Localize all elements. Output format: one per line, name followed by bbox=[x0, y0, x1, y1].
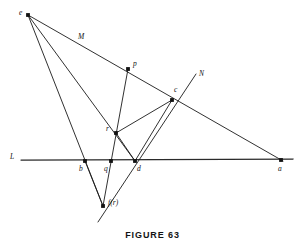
line-r-to-d bbox=[116, 133, 135, 161]
point-dot-r bbox=[114, 131, 118, 135]
point-label-fr: f(r) bbox=[108, 199, 118, 207]
segments-group bbox=[21, 15, 293, 222]
line-label-M: M bbox=[78, 33, 84, 41]
point-label-q: q bbox=[104, 165, 108, 173]
figure-container: epcrbqdaf(r)MNL FIGURE 63 bbox=[0, 0, 305, 248]
figure-caption: FIGURE 63 bbox=[0, 230, 305, 240]
figure-canvas bbox=[0, 0, 305, 248]
line-r-to-c bbox=[116, 100, 172, 133]
line-label-L: L bbox=[10, 153, 14, 161]
point-label-c: c bbox=[174, 86, 177, 94]
line-label-N: N bbox=[199, 70, 204, 78]
point-dot-fr bbox=[101, 204, 105, 208]
point-dot-c bbox=[170, 98, 174, 102]
line-M-e-to-a bbox=[28, 15, 283, 161]
point-dot-q bbox=[109, 159, 113, 163]
point-label-d: d bbox=[137, 165, 141, 173]
point-dot-a bbox=[279, 158, 283, 162]
point-dot-e bbox=[26, 13, 30, 17]
line-b-to-fr bbox=[85, 161, 103, 206]
point-dot-b bbox=[83, 159, 87, 163]
point-label-p: p bbox=[133, 60, 137, 68]
line-p-to-q-fr bbox=[103, 69, 128, 206]
point-dot-d bbox=[133, 159, 137, 163]
point-label-b: b bbox=[79, 165, 83, 173]
line-c-to-d bbox=[135, 100, 172, 161]
point-label-a: a bbox=[278, 165, 282, 173]
point-label-r: r bbox=[106, 125, 109, 133]
point-dot-p bbox=[126, 67, 130, 71]
point-label-e: e bbox=[19, 9, 22, 17]
line-L bbox=[21, 159, 293, 160]
